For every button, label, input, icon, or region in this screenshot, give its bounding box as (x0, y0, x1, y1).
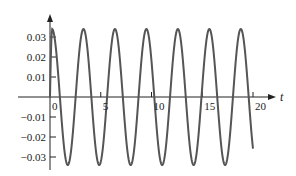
x-tick-label: 10 (154, 100, 166, 112)
x-axis-arrow-icon (268, 94, 276, 100)
y-tick-label: −0.01 (21, 111, 46, 123)
y-tick-label: −0.02 (21, 131, 46, 143)
chart: 05101520t0.030.020.01−0.01−0.02−0.03 (0, 0, 296, 176)
x-tick-label: 15 (204, 100, 216, 112)
x-tick-label: 5 (103, 100, 109, 112)
x-tick-label: 0 (52, 100, 58, 112)
y-tick-label: 0.03 (27, 31, 47, 43)
y-axis-arrow-icon (47, 14, 53, 22)
y-tick-label: 0.02 (27, 51, 46, 63)
y-tick-label: 0.01 (27, 71, 46, 83)
y-tick-label: −0.03 (21, 151, 47, 163)
x-axis-label: t (280, 90, 284, 104)
x-tick-label: 20 (255, 100, 267, 112)
plot-area: 05101520t0.030.020.01−0.01−0.02−0.03 (0, 0, 296, 176)
